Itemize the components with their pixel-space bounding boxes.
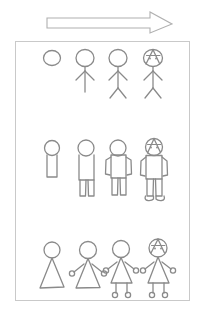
dress-figure-step-3	[103, 241, 138, 298]
row-dress-figures	[0, 0, 206, 316]
dress-figure-step-2	[69, 242, 106, 289]
drawing-sheet: Stick figure drawing progression chart H…	[0, 0, 206, 316]
dress-figure-step-4	[140, 239, 175, 298]
dress-figure-step-1	[40, 242, 64, 288]
